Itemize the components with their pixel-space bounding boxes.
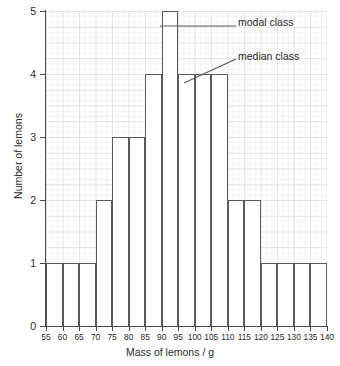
x-axis-tick-label: 140 xyxy=(317,333,337,342)
x-axis-tick xyxy=(129,326,130,331)
x-axis-tick xyxy=(244,326,245,331)
x-axis-tick xyxy=(63,326,64,331)
x-axis-tick xyxy=(261,326,262,331)
y-axis-tick xyxy=(40,11,46,12)
histogram-bar xyxy=(195,74,212,326)
histogram-bar xyxy=(310,263,327,326)
histogram-bar xyxy=(112,137,129,326)
histogram-bar xyxy=(228,200,245,326)
histogram-bar xyxy=(211,74,228,326)
y-axis-tick xyxy=(40,200,46,201)
y-axis-tick xyxy=(40,74,46,75)
x-axis-tick xyxy=(96,326,97,331)
histogram-bar xyxy=(261,263,278,326)
histogram-figure: 012345 556065707580859095100105110115120… xyxy=(0,0,340,366)
x-axis-tick xyxy=(327,326,328,331)
modal-class-annotation-label: modal class xyxy=(238,17,293,28)
histogram-bar xyxy=(277,263,294,326)
y-axis-tick-label: 4 xyxy=(4,69,36,79)
y-axis-tick xyxy=(40,137,46,138)
y-axis-tick-label: 0 xyxy=(4,321,36,331)
x-axis-title: Mass of lemons / g xyxy=(0,346,340,358)
histogram-bar xyxy=(162,11,179,326)
x-axis-tick xyxy=(228,326,229,331)
y-axis-tick xyxy=(40,263,46,264)
x-axis-tick xyxy=(162,326,163,331)
x-axis-tick xyxy=(294,326,295,331)
histogram-bar xyxy=(46,263,63,326)
x-axis-tick xyxy=(178,326,179,331)
x-axis-tick xyxy=(310,326,311,331)
x-axis-tick xyxy=(211,326,212,331)
histogram-bar xyxy=(96,200,113,326)
x-axis-tick xyxy=(195,326,196,331)
y-axis-title: Number of lemons xyxy=(12,86,24,226)
histogram-bar xyxy=(244,200,261,326)
histogram-bar xyxy=(145,74,162,326)
x-axis-tick xyxy=(277,326,278,331)
x-axis-tick xyxy=(79,326,80,331)
histogram-bar xyxy=(129,137,146,326)
histogram-bar xyxy=(79,263,96,326)
y-axis-tick-label: 1 xyxy=(4,258,36,268)
median-class-annotation-label: median class xyxy=(238,51,299,62)
x-axis-tick xyxy=(112,326,113,331)
histogram-bar xyxy=(63,263,80,326)
histogram-bar xyxy=(294,263,311,326)
x-axis-tick xyxy=(145,326,146,331)
y-axis-tick-label: 5 xyxy=(4,6,36,16)
histogram-bar xyxy=(178,74,195,326)
x-axis-tick xyxy=(46,326,47,331)
